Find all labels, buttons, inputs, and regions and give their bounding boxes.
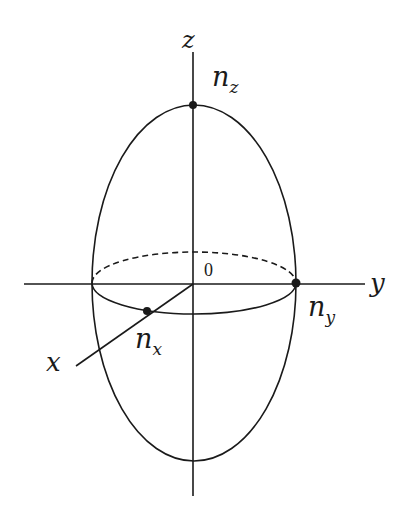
ellipsoid-outline — [92, 105, 296, 461]
z-axis-label: z — [181, 26, 195, 54]
equator-back-dashed — [92, 252, 296, 283]
y-axis-label: y — [369, 268, 385, 298]
origin-label: 0 — [204, 260, 213, 280]
ny-label: ny — [308, 291, 335, 327]
equator-front-solid — [92, 283, 296, 314]
x-axis-label: x — [46, 347, 61, 377]
nz-label: nz — [212, 61, 239, 97]
nx-label: nx — [135, 323, 162, 359]
point-nz — [189, 101, 197, 109]
index-ellipsoid-diagram: z y x 0 nz ny nx — [0, 0, 405, 523]
point-nx — [143, 307, 151, 315]
point-ny — [292, 279, 301, 288]
